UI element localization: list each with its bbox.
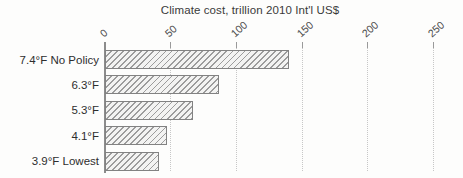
- grid-line: [302, 48, 303, 171]
- x-tick-label: 0: [97, 26, 110, 40]
- bar-3: [105, 101, 193, 120]
- grid-line: [367, 48, 368, 171]
- x-tick-label: 200: [360, 19, 382, 40]
- tick-mark: [236, 42, 237, 48]
- grid-line: [433, 48, 434, 171]
- x-tick-label: 150: [294, 19, 316, 40]
- x-tick-label: 250: [425, 19, 447, 40]
- category-label: 4.1°F: [0, 129, 99, 143]
- bar-1: [105, 50, 289, 69]
- category-label: 6.3°F: [0, 78, 99, 92]
- category-label: 3.9°F Lowest: [0, 154, 99, 168]
- tick-mark: [302, 42, 303, 48]
- x-tick-label: 50: [162, 23, 179, 40]
- x-tick-label: 100: [228, 19, 250, 40]
- bar-4: [105, 126, 167, 145]
- tick-mark: [433, 42, 434, 48]
- category-label: 7.4°F No Policy: [0, 53, 99, 67]
- tick-mark: [367, 42, 368, 48]
- category-label: 5.3°F: [0, 103, 99, 117]
- bar-5: [105, 152, 159, 171]
- tick-mark: [170, 42, 171, 48]
- bar-2: [105, 75, 219, 94]
- chart-title: Climate cost, trillion 2010 Int'l US$: [100, 4, 400, 16]
- climate-cost-bar-chart: Climate cost, trillion 2010 Int'l US$ 05…: [0, 0, 463, 178]
